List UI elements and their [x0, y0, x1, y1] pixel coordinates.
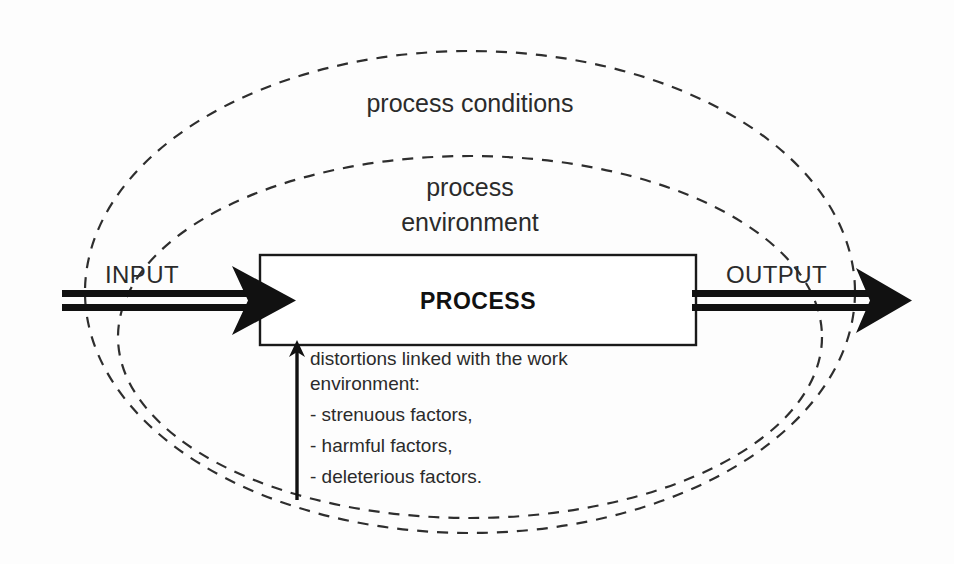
note-line-2: environment:: [310, 373, 420, 394]
process-label: PROCESS: [420, 288, 536, 314]
note-line-4: - harmful factors,: [310, 435, 453, 456]
note-line-3: - strenuous factors,: [310, 404, 473, 425]
input-label: INPUT: [105, 261, 179, 288]
output-arrowhead: [856, 268, 912, 333]
process-diagram: process conditions process environment I…: [0, 0, 954, 564]
note-line-1: distortions linked with the work: [310, 348, 568, 369]
outer-ellipse-label: process conditions: [366, 89, 573, 117]
inner-ellipse-label-line1: process: [426, 173, 514, 201]
diagram-canvas: process conditions process environment I…: [0, 0, 954, 564]
note-line-5: - deleterious factors.: [310, 466, 482, 487]
inner-ellipse-label-line2: environment: [401, 208, 539, 236]
output-label: OUTPUT: [726, 261, 827, 288]
